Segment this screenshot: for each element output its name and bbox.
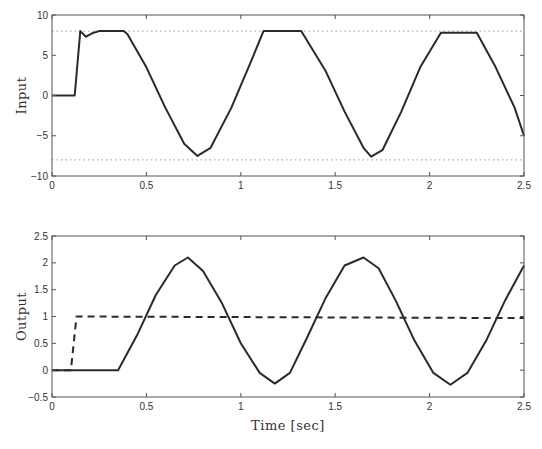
x-tick-label: 2.5 bbox=[517, 180, 531, 191]
output-plot: 00.511.522.5−0.500.511.522.5OutputTime [… bbox=[14, 231, 531, 434]
axes-frame bbox=[52, 15, 524, 176]
axes-frame bbox=[52, 236, 524, 397]
x-tick-label: 2.5 bbox=[517, 401, 531, 412]
x-tick-label: 1 bbox=[238, 180, 244, 191]
x-tick-label: 2 bbox=[427, 401, 433, 412]
y-tick-label: 1 bbox=[42, 311, 48, 322]
input-line bbox=[52, 31, 524, 157]
y-tick-label: 2.5 bbox=[34, 231, 48, 242]
y-tick-label: −10 bbox=[31, 171, 48, 182]
x-tick-label: 0.5 bbox=[139, 180, 153, 191]
y-tick-label: 10 bbox=[37, 10, 49, 21]
y-tick-label: 1.5 bbox=[34, 284, 48, 295]
chart-figure: 00.511.522.5−10−50510Input 00.511.522.5−… bbox=[0, 0, 542, 449]
y-tick-label: 2 bbox=[42, 257, 48, 268]
x-axis-label: Time [sec] bbox=[251, 418, 325, 433]
y-tick-label: 5 bbox=[42, 50, 48, 61]
x-tick-label: 0.5 bbox=[139, 401, 153, 412]
input-plot: 00.511.522.5−10−50510Input bbox=[14, 10, 531, 192]
y-tick-label: −5 bbox=[37, 130, 49, 141]
y-tick-label: 0 bbox=[42, 365, 48, 376]
x-tick-label: 0 bbox=[49, 180, 55, 191]
y-tick-label: −0.5 bbox=[28, 392, 48, 403]
y-axis-label: Input bbox=[14, 76, 29, 114]
output-line bbox=[52, 258, 524, 385]
x-tick-label: 1.5 bbox=[328, 180, 342, 191]
x-tick-label: 2 bbox=[427, 180, 433, 191]
y-tick-label: 0 bbox=[42, 90, 48, 101]
y-tick-label: 0.5 bbox=[34, 338, 48, 349]
x-tick-label: 1 bbox=[238, 401, 244, 412]
x-tick-label: 0 bbox=[49, 401, 55, 412]
x-tick-label: 1.5 bbox=[328, 401, 342, 412]
y-axis-label: Output bbox=[14, 292, 29, 341]
